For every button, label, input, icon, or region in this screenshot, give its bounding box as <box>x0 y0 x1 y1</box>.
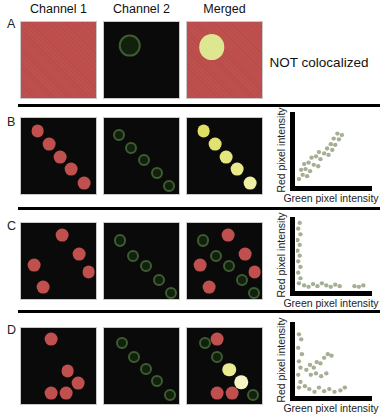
column-header-channel-1: Channel 1 <box>20 2 97 16</box>
fluorescent-dot <box>208 137 221 150</box>
panel-c-channel-1 <box>20 222 97 300</box>
x-axis-label: Green pixel intensity <box>283 297 378 309</box>
scatter-plot-c <box>296 218 370 289</box>
faint-green-ring <box>211 351 223 363</box>
panel-d-channel-2 <box>103 327 180 405</box>
y-axis-label: Red pixel intensity <box>275 317 287 402</box>
not-colocalized-text: NOT colocalized <box>270 55 369 70</box>
fluorescent-dot <box>193 258 206 271</box>
fluorescent-dot <box>42 137 55 150</box>
faint-green-ring <box>140 363 152 375</box>
fluorescent-dot <box>31 124 44 137</box>
fluorescent-dot <box>36 280 49 293</box>
fluorescent-dot <box>45 332 58 345</box>
row-divider <box>18 310 380 313</box>
fluorescent-dot <box>72 376 85 389</box>
panel-c-merged <box>186 222 263 300</box>
fluorescent-dot <box>54 150 67 163</box>
scatter-plot-d <box>296 323 370 394</box>
fluorescent-dot <box>197 124 210 137</box>
faint-green-ring <box>197 234 209 246</box>
fluorescent-dot <box>248 265 261 278</box>
row-divider <box>18 104 380 107</box>
panel-b-channel-2 <box>103 117 180 195</box>
faint-green-ring <box>210 250 222 262</box>
faint-green-ring <box>125 142 137 154</box>
faint-green-ring <box>138 154 150 166</box>
faint-green-ring <box>165 287 177 299</box>
fluorescent-dot <box>60 387 73 400</box>
y-axis-line <box>290 217 295 296</box>
y-axis-label: Red pixel intensity <box>275 107 287 192</box>
faint-green-ring <box>151 167 163 179</box>
faint-green-ring <box>164 389 176 401</box>
fluorescent-dot <box>244 176 257 189</box>
faint-green-ring <box>118 34 141 57</box>
row-divider <box>18 207 380 210</box>
scatter-points <box>296 218 370 289</box>
fluorescent-dot <box>27 258 40 271</box>
y-axis-line <box>290 112 295 191</box>
faint-green-ring <box>140 260 152 272</box>
y-axis-line <box>290 322 295 401</box>
panel-a-channel-2 <box>103 21 180 99</box>
faint-green-ring <box>248 287 260 299</box>
x-axis-line <box>290 186 372 191</box>
fluorescent-dot <box>226 387 239 400</box>
faint-green-ring <box>236 274 248 286</box>
faint-green-ring <box>247 389 259 401</box>
fluorescent-dot <box>45 387 58 400</box>
fluorescent-dot <box>82 265 95 278</box>
row-label-c: C <box>7 219 16 233</box>
fluorescent-dot <box>220 150 233 163</box>
faint-green-ring <box>153 274 165 286</box>
fluorescent-dot <box>222 363 236 377</box>
fluorescent-dot <box>238 248 251 261</box>
faint-green-ring <box>114 234 126 246</box>
faint-green-ring <box>116 337 128 349</box>
column-header-channel-2: Channel 2 <box>103 2 180 16</box>
fluorescent-dot <box>202 280 215 293</box>
x-axis-label: Green pixel intensity <box>283 192 378 204</box>
row-label-a: A <box>7 17 15 31</box>
faint-green-ring <box>199 337 211 349</box>
fluorescent-dot <box>234 375 248 389</box>
x-axis-line <box>290 396 372 401</box>
faint-green-ring <box>127 250 139 262</box>
faint-green-ring <box>128 351 140 363</box>
colocalization-figure: Channel 1 Channel 2 Merged A NOT colocal… <box>0 0 385 419</box>
column-header-merged: Merged <box>186 2 263 16</box>
row-label-d: D <box>7 323 16 337</box>
faint-green-ring <box>113 129 125 141</box>
x-axis-label: Green pixel intensity <box>283 402 378 414</box>
faint-green-ring <box>163 180 175 192</box>
row-label-b: B <box>7 115 15 129</box>
fluorescent-dot <box>199 34 225 60</box>
fluorescent-dot <box>61 365 74 378</box>
x-axis-line <box>290 291 372 296</box>
panel-a-merged <box>186 21 263 99</box>
fluorescent-dot <box>56 229 69 242</box>
fluorescent-dot <box>211 332 224 345</box>
fluorescent-dot <box>78 176 91 189</box>
scatter-points <box>296 323 370 394</box>
fluorescent-dot <box>211 387 224 400</box>
panel-d-merged <box>186 327 263 405</box>
scatter-plot-b <box>296 113 370 184</box>
y-axis-label: Red pixel intensity <box>275 212 287 297</box>
fluorescent-dot <box>65 162 78 175</box>
faint-green-ring <box>151 375 163 387</box>
faint-green-ring <box>223 260 235 272</box>
scatter-points <box>296 113 370 184</box>
fluorescent-dot <box>72 248 85 261</box>
panel-b-channel-1 <box>20 117 97 195</box>
panel-a-channel-1 <box>20 21 97 99</box>
panel-c-channel-2 <box>103 222 180 300</box>
fluorescent-dot <box>222 229 235 242</box>
panel-b-merged <box>186 117 263 195</box>
fluorescent-dot <box>231 162 244 175</box>
panel-d-channel-1 <box>20 327 97 405</box>
